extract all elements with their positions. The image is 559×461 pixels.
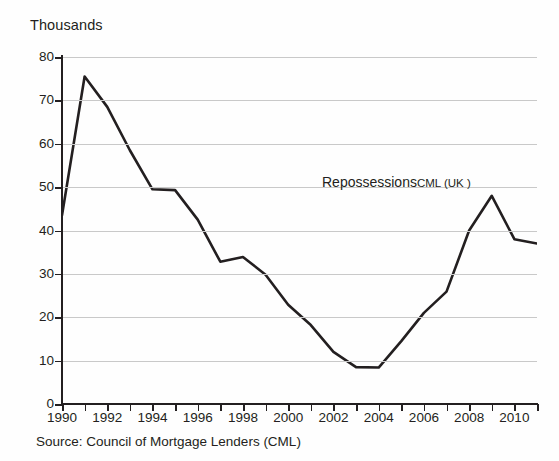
gridline (62, 317, 537, 318)
y-axis-tick-label: 10 (20, 354, 54, 368)
x-axis-tick-label: 2006 (409, 410, 439, 425)
y-axis-tick-label: 80 (20, 50, 54, 64)
x-axis-tick (85, 404, 87, 411)
y-axis-tick (55, 100, 62, 102)
x-axis-tick (492, 404, 494, 411)
y-axis-tick (55, 57, 62, 59)
x-axis-tick (311, 404, 313, 411)
y-axis-labels: 01020304050607080 (10, 0, 54, 461)
y-axis-tick-label: 40 (20, 224, 54, 238)
y-axis-tick (55, 187, 62, 189)
x-axis-tick-label: 2008 (454, 410, 484, 425)
x-axis-tick (356, 404, 358, 411)
y-axis-tick (55, 361, 62, 363)
gridline (62, 361, 537, 362)
x-axis-tick (175, 404, 177, 411)
gridline (62, 57, 537, 58)
series-annotation-main: Repossessions (322, 174, 417, 190)
source-note: Source: Council of Mortgage Lenders (CML… (36, 434, 301, 449)
series-annotation: RepossessionsCML (UK ) (322, 173, 471, 191)
y-axis-tick (55, 231, 62, 233)
x-axis-tick (220, 404, 222, 411)
gridline (62, 144, 537, 145)
x-axis-tick-label: 1996 (183, 410, 213, 425)
chart-figure: Thousands 01020304050607080 199019921994… (0, 0, 559, 461)
x-axis-tick (130, 404, 132, 411)
x-axis-tick-label: 2010 (499, 410, 529, 425)
y-axis-tick (55, 317, 62, 319)
y-axis-tick (55, 404, 62, 406)
x-axis-tick-label: 1994 (137, 410, 167, 425)
x-axis-tick-label: 1998 (228, 410, 258, 425)
x-axis-tick (401, 404, 403, 411)
x-axis-tick (447, 404, 449, 411)
gridline (62, 231, 537, 232)
x-axis-tick (537, 404, 539, 411)
gridline (62, 274, 537, 275)
y-axis-tick-label: 50 (20, 180, 54, 194)
y-axis-tick-label: 70 (20, 93, 54, 107)
y-axis-tick (55, 144, 62, 146)
gridline (62, 100, 537, 101)
x-axis-tick-label: 2004 (364, 410, 394, 425)
y-axis-tick-label: 30 (20, 267, 54, 281)
x-axis-tick-label: 1992 (92, 410, 122, 425)
y-axis-tick (55, 274, 62, 276)
x-axis-tick-label: 1990 (47, 410, 77, 425)
y-axis-tick-label: 20 (20, 310, 54, 324)
y-axis-tick-label: 0 (20, 397, 54, 411)
x-axis-line (61, 403, 538, 405)
x-axis-tick-label: 2000 (273, 410, 303, 425)
x-axis-tick-label: 2002 (318, 410, 348, 425)
y-axis-tick-label: 60 (20, 137, 54, 151)
series-annotation-sub: CML (UK ) (417, 177, 471, 189)
x-axis-tick (266, 404, 268, 411)
plot-area (62, 57, 537, 404)
